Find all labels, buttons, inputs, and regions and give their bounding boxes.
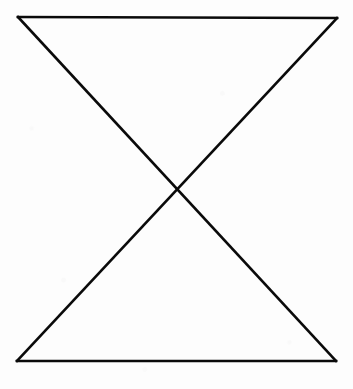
figure-canvas bbox=[0, 0, 353, 389]
top-edge-line bbox=[18, 17, 337, 18]
geometric-figure-svg bbox=[0, 0, 353, 389]
